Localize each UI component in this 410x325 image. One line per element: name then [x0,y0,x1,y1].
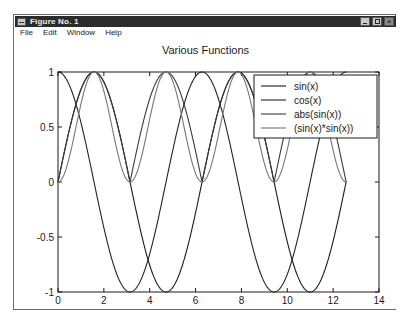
legend-label-3: (sin(x)*sin(x)) [294,123,353,134]
window-title: Figure No. 1 [30,16,360,27]
menu-item-file[interactable]: File [15,27,38,39]
system-menu-icon[interactable] [17,18,26,26]
window-titlebar[interactable]: Figure No. 1 [15,16,396,27]
x-tick-label: 12 [328,295,340,306]
menubar: File Edit Window Help [15,27,396,39]
y-tick-label: 1 [48,67,54,78]
y-tick-label: 0 [48,177,54,188]
y-tick-label: -0.5 [37,232,55,243]
desktop-background: Figure No. 1 File Edit Window Help Vario… [0,0,410,325]
menu-item-edit[interactable]: Edit [38,27,62,39]
minimize-icon[interactable] [360,17,370,26]
x-tick-label: 2 [101,295,107,306]
x-tick-label: 6 [193,295,199,306]
y-tick-label: 0.5 [40,122,54,133]
legend-label-0: sin(x) [294,81,318,92]
x-tick-label: 14 [373,295,385,306]
close-icon[interactable] [384,17,394,26]
x-tick-label: 4 [147,295,153,306]
plot-area: 02468101214-1-0.500.51x - (Radians)sin(x… [15,39,396,309]
legend-label-2: abs(sin(x)) [294,109,341,120]
legend-label-1: cos(x) [294,95,321,106]
maximize-icon[interactable] [372,17,382,26]
figure-canvas: Various Functions 02468101214-1-0.500.51… [15,39,396,309]
window-controls [360,17,394,26]
x-tick-label: 0 [55,295,61,306]
menu-item-window[interactable]: Window [62,27,100,39]
x-tick-label: 10 [282,295,294,306]
figure-window: Figure No. 1 File Edit Window Help Vario… [13,14,396,310]
menu-item-help[interactable]: Help [100,27,126,39]
y-tick-label: -1 [45,287,54,298]
x-tick-label: 8 [239,295,245,306]
